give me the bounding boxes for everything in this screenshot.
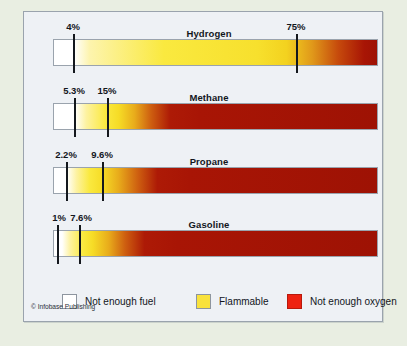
copyright-credit: © Infobase Publishing (31, 303, 95, 310)
tick-propane-lower (66, 162, 68, 201)
tick-label-propane-upper: 9.6% (91, 149, 113, 160)
bar-fill-gasoline (54, 231, 377, 256)
bar-label-gasoline: Gasoline (189, 219, 230, 230)
tick-gasoline-lower (57, 225, 59, 264)
flammability-range-figure: Hydrogen 4% 75% Methane 5.3% 15% Propane… (23, 11, 383, 322)
tick-label-gasoline-upper: 7.6% (70, 212, 92, 223)
tick-propane-upper (102, 162, 104, 201)
legend-swatch-flammable (196, 294, 211, 309)
bar-fill-hydrogen (54, 40, 377, 65)
tick-label-hydrogen-upper: 75% (286, 21, 305, 32)
legend-item-flammable: Flammable (196, 294, 268, 309)
tick-methane-upper (107, 98, 109, 137)
tick-gasoline-upper (79, 225, 81, 264)
bar-label-hydrogen: Hydrogen (186, 28, 231, 39)
tick-hydrogen-lower (73, 34, 75, 73)
legend-label-flammable: Flammable (219, 296, 268, 307)
bar-hydrogen (53, 39, 378, 66)
bar-gasoline (53, 230, 378, 257)
tick-label-propane-lower: 2.2% (55, 149, 77, 160)
bar-label-methane: Methane (189, 92, 228, 103)
bar-label-propane: Propane (190, 156, 229, 167)
tick-label-hydrogen-lower: 4% (66, 21, 80, 32)
legend-label-not-enough-fuel: Not enough fuel (85, 296, 156, 307)
bar-methane (53, 103, 378, 130)
tick-label-gasoline-lower: 1% (52, 212, 66, 223)
bar-fill-methane (54, 104, 377, 129)
legend-item-not-enough-oxygen: Not enough oxygen (287, 294, 397, 309)
tick-label-methane-upper: 15% (97, 85, 116, 96)
tick-hydrogen-upper (296, 34, 298, 73)
tick-label-methane-lower: 5.3% (63, 85, 85, 96)
legend-label-not-enough-oxygen: Not enough oxygen (310, 296, 397, 307)
tick-methane-lower (74, 98, 76, 137)
legend-swatch-not-enough-oxygen (287, 294, 302, 309)
